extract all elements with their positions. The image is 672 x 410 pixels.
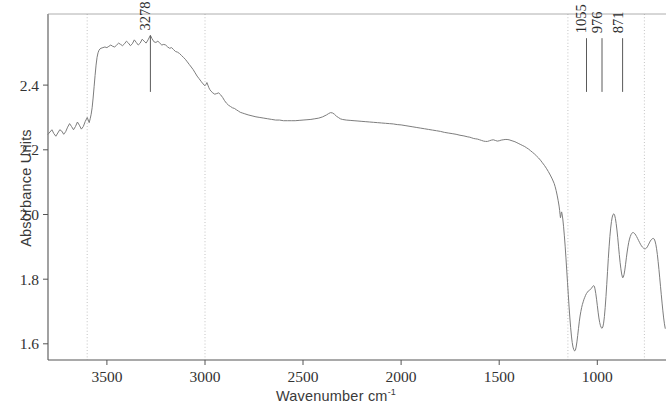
x-tick-label: 3000 (190, 368, 221, 385)
x-axis-title-text: Wavenumber cm (276, 388, 388, 404)
peak-label: 976 (589, 11, 605, 33)
x-axis-title: Wavenumber cm-1 (0, 387, 672, 404)
y-axis-title: Absorbance Units (18, 58, 34, 318)
spectrum-plot: 350030002500200015001000 1.61.82.02.22.4… (0, 0, 672, 410)
peak-annotations: 32781055976871 (137, 2, 625, 92)
x-tick-label: 1500 (484, 368, 515, 385)
x-tick-label: 3500 (91, 368, 122, 385)
x-tick-label: 1000 (582, 368, 613, 385)
peak-label: 871 (610, 11, 626, 33)
x-tick-label: 2500 (288, 368, 319, 385)
peak-label: 3278 (137, 2, 153, 31)
peak-label: 1055 (574, 4, 590, 33)
y-tick-label: 1.6 (20, 335, 40, 352)
plot-frame (48, 14, 666, 360)
spectrum-trace (48, 35, 665, 351)
spectrum-line (48, 35, 665, 351)
x-axis-title-exponent: -1 (388, 387, 396, 397)
x-tick-label: 2000 (386, 368, 417, 385)
grid-lines (87, 14, 644, 360)
x-axis-ticks: 350030002500200015001000 (91, 360, 613, 385)
ftir-spectrum-figure: 350030002500200015001000 1.61.82.02.22.4… (0, 0, 672, 410)
